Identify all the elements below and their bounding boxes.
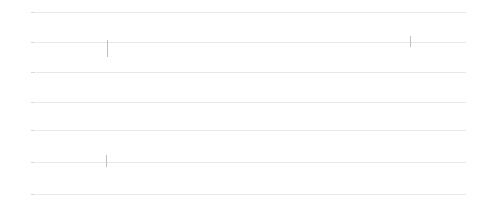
tickmark-top-50 <box>31 42 35 43</box>
plot-area-top <box>36 12 466 102</box>
gridline-0 <box>36 194 466 195</box>
tickmark-top-30 <box>31 102 35 103</box>
tickmark-bottom-20 <box>31 130 35 131</box>
tickmark-bottom-0 <box>31 194 35 195</box>
gridline-30 <box>36 102 466 103</box>
chart-panel-secondary-tertiary <box>0 0 484 118</box>
tickmark-top-40 <box>31 72 35 73</box>
callout-leader-primary <box>106 155 107 167</box>
tickmark-top-60 <box>31 12 35 13</box>
plot-area-bottom <box>36 130 466 194</box>
x-axis-labels <box>0 200 484 214</box>
series-lines-bottom <box>36 130 466 194</box>
chart-figure <box>0 0 484 222</box>
callout-leader-secondary <box>107 40 108 57</box>
series-lines-top <box>36 12 466 102</box>
tickmark-bottom-10 <box>31 162 35 163</box>
chart-panel-primary <box>0 118 484 222</box>
callout-leader-tertiary <box>410 36 411 47</box>
